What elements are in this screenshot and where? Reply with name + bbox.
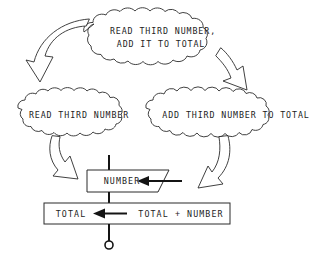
connector-left-cloud-to-number-box bbox=[50, 136, 78, 179]
node-right-cloud: ADD THIRD NUMBER TO TOTAL bbox=[146, 87, 310, 137]
flowchart-canvas: READ THIRD NUMBER, ADD IT TO TOTAL READ … bbox=[0, 0, 326, 260]
curved-block-arrow-down-right-icon bbox=[216, 48, 247, 90]
terminator-circle-icon bbox=[105, 241, 113, 249]
total-box-expression: TOTAL + NUMBER bbox=[138, 209, 223, 219]
curved-block-arrow-down-right-2-icon bbox=[50, 136, 78, 179]
curved-block-arrow-down-left-2-icon bbox=[198, 136, 230, 188]
top-cloud-line1: READ THIRD NUMBER, bbox=[110, 26, 216, 36]
curved-block-arrow-down-left-icon bbox=[26, 19, 89, 82]
top-cloud-shape bbox=[84, 8, 208, 65]
right-cloud-label: ADD THIRD NUMBER TO TOTAL bbox=[162, 110, 309, 120]
number-box-label: NUMBER bbox=[104, 176, 141, 186]
connector-top-to-left-cloud bbox=[26, 19, 89, 82]
connector-right-cloud-to-total-box bbox=[198, 136, 230, 188]
flowchart-diagram: READ THIRD NUMBER, ADD IT TO TOTAL READ … bbox=[0, 0, 326, 260]
node-total-box: TOTAL TOTAL + NUMBER bbox=[44, 203, 230, 224]
node-top-cloud: READ THIRD NUMBER, ADD IT TO TOTAL bbox=[84, 8, 216, 65]
top-cloud-line2: ADD IT TO TOTAL bbox=[117, 39, 205, 49]
node-left-cloud: READ THIRD NUMBER bbox=[18, 88, 129, 136]
left-cloud-label: READ THIRD NUMBER bbox=[29, 110, 129, 120]
connector-top-to-right-cloud bbox=[216, 48, 247, 90]
total-box-target: TOTAL bbox=[56, 209, 86, 219]
